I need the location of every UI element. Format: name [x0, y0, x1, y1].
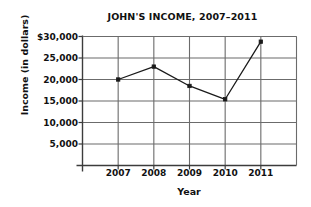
axis-frame: [77, 36, 297, 172]
axis-tick-marks: [79, 37, 261, 170]
line-chart: JOHN'S INCOME, 2007–2011 Income (in doll…: [0, 0, 311, 207]
plot-area: [0, 0, 311, 207]
